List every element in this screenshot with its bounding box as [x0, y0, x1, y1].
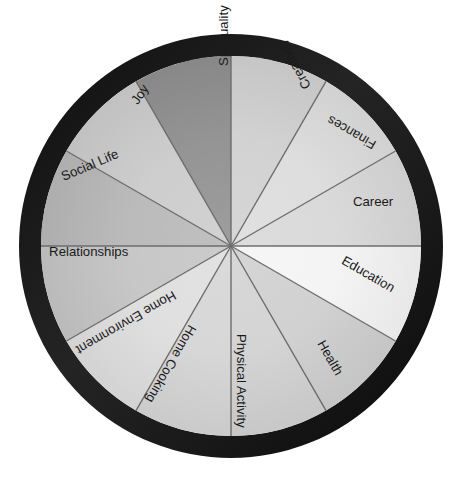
segment-label: Relationships	[49, 244, 129, 259]
wheel-svg-canvas: CareerEducationHealthPhysical ActivityHo…	[0, 0, 462, 483]
segment-label: Spirituality	[216, 5, 231, 66]
segment-label: Career	[353, 194, 394, 209]
segment-label: Physical Activity	[234, 334, 249, 428]
wheel-of-life-diagram: CareerEducationHealthPhysical ActivityHo…	[0, 0, 462, 483]
